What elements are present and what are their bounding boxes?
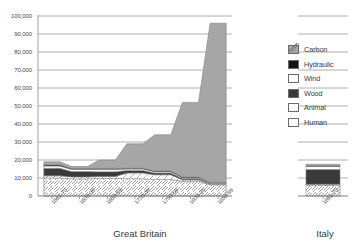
panel-title-italy: Italy bbox=[295, 228, 355, 239]
legend-label: Wood bbox=[304, 89, 323, 98]
legend-swatch-human bbox=[288, 118, 299, 127]
legend-swatch-hydraulic bbox=[288, 60, 299, 69]
area-series-wind bbox=[306, 166, 340, 169]
legend-label: Animal bbox=[304, 103, 326, 112]
area-series-carbon bbox=[306, 164, 340, 166]
y-axis-tick-label: 40,000 bbox=[0, 121, 32, 128]
y-axis-tick-label: 100,000 bbox=[0, 13, 32, 20]
y-axis-tick-label: 90,000 bbox=[0, 31, 32, 38]
area-series-wood bbox=[306, 170, 340, 185]
y-axis-tick-label: 20,000 bbox=[0, 157, 32, 164]
legend-label: Carbon bbox=[304, 45, 327, 54]
y-axis-tick-label: 60,000 bbox=[0, 85, 32, 92]
legend-label: Hydraulic bbox=[304, 60, 334, 69]
legend-item-animal[interactable]: Animal bbox=[288, 101, 334, 114]
y-axis-tick-label: 80,000 bbox=[0, 49, 32, 56]
stacked-areas-great-britain bbox=[44, 23, 226, 196]
legend-label: Wind bbox=[304, 74, 320, 83]
panel-title-great-britain: Great Britain bbox=[60, 228, 220, 239]
chart-root: 010,00020,00030,00040,00050,00060,00070,… bbox=[0, 0, 363, 251]
legend-item-wind[interactable]: Wind bbox=[288, 72, 334, 85]
area-series-carbon bbox=[44, 23, 226, 182]
chart-legend: CarbonHydraulicWindWoodAnimalHuman bbox=[288, 43, 334, 130]
legend-swatch-wind bbox=[288, 74, 299, 83]
y-axis-tick-label: 0 bbox=[0, 193, 32, 200]
y-axis-tick-label: 30,000 bbox=[0, 139, 32, 146]
y-axis-tick-label: 10,000 bbox=[0, 175, 32, 182]
y-axis-tick-label: 70,000 bbox=[0, 67, 32, 74]
legend-swatch-animal bbox=[288, 103, 299, 112]
legend-label: Human bbox=[304, 118, 327, 127]
legend-item-hydraulic[interactable]: Hydraulic bbox=[288, 58, 334, 71]
legend-item-wood[interactable]: Wood bbox=[288, 87, 334, 100]
legend-swatch-wood bbox=[288, 89, 299, 98]
legend-item-human[interactable]: Human bbox=[288, 116, 334, 129]
y-axis-tick-label: 50,000 bbox=[0, 103, 32, 110]
